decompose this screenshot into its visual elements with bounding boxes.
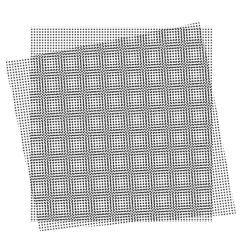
moire-figure — [0, 0, 242, 246]
moire-pattern-canvas — [0, 0, 242, 246]
